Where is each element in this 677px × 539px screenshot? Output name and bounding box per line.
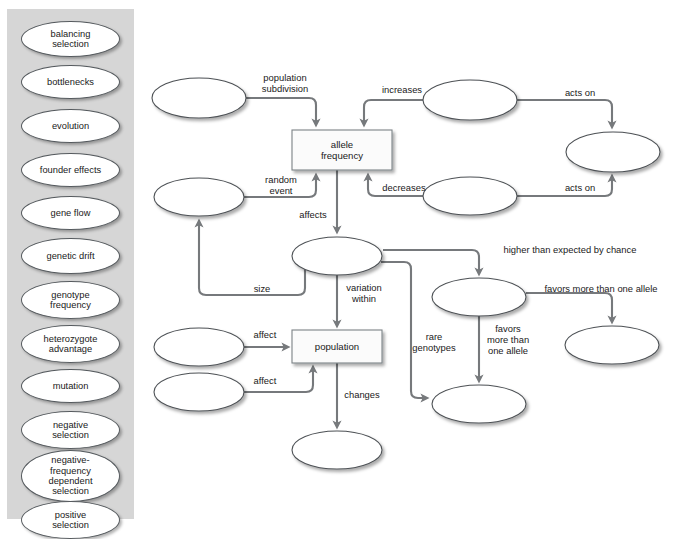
concept-ellipse[interactable] [432,278,526,316]
relation-arrow [526,293,612,320]
concept-label: population [315,341,359,352]
ellipse-shape [566,132,660,172]
ellipse-shape [154,328,244,366]
relation-arrow [517,100,612,125]
ellipse-shape [292,431,382,469]
relation-arrow [364,100,423,123]
relation-label: variationwithin [346,282,381,304]
relation-arrow [381,262,425,398]
concept-ellipse[interactable] [292,431,382,469]
concept-ellipse[interactable] [566,132,660,172]
ellipse-shape [292,237,382,275]
relation-label: favors more than one allele [544,283,657,294]
relation-arrow [246,98,316,123]
concept-ellipse[interactable] [154,328,244,366]
node-layer: allelefrequencypopulation [152,78,660,469]
concept-ellipse[interactable] [292,237,382,275]
concept-ellipse[interactable] [154,373,244,411]
relation-label: changes [344,389,380,400]
ellipse-shape [565,326,659,364]
concept-ellipse[interactable] [565,326,659,364]
ellipse-shape [154,373,244,411]
concept-box[interactable]: population [292,330,382,363]
relation-label: populationsubdivision [262,72,308,94]
relation-label: acts on [565,87,595,98]
concept-ellipse[interactable] [423,177,517,215]
relation-label: size [254,283,271,294]
concept-box[interactable]: allelefrequency [292,130,392,170]
relation-label: decreases [382,182,426,193]
concept-ellipse[interactable] [423,80,517,120]
ellipse-shape [423,177,517,215]
relation-label: increases [382,84,422,95]
ellipse-shape [152,78,246,118]
relation-label: favorsmore thanone allele [487,323,529,356]
relation-label: randomevent [265,174,297,196]
ellipse-shape [432,278,526,316]
relation-label: raregenotypes [412,331,456,353]
ellipse-shape [432,385,526,423]
relation-label: higher than expected by chance [504,244,637,255]
concept-ellipse[interactable] [154,178,244,216]
concept-ellipse[interactable] [152,78,246,118]
relation-label: acts on [565,182,595,193]
relation-label: affect [254,329,277,340]
relation-arrow [199,223,305,295]
relation-label: affects [299,209,327,220]
ellipse-shape [154,178,244,216]
concept-ellipse[interactable] [432,385,526,423]
relation-label: affect [254,375,277,386]
ellipse-shape [423,80,517,120]
